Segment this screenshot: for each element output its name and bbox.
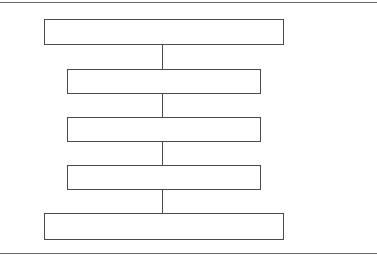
connector-2-3 [162, 94, 163, 117]
node-level-5 [44, 213, 284, 240]
connector-1-2 [162, 45, 163, 69]
top-rule [0, 2, 377, 3]
bottom-rule [0, 253, 377, 254]
node-level-4 [67, 165, 261, 190]
node-level-3 [67, 117, 261, 142]
node-level-1 [44, 19, 284, 45]
connector-4-5 [162, 190, 163, 213]
node-level-2 [67, 69, 261, 94]
connector-3-4 [162, 142, 163, 165]
